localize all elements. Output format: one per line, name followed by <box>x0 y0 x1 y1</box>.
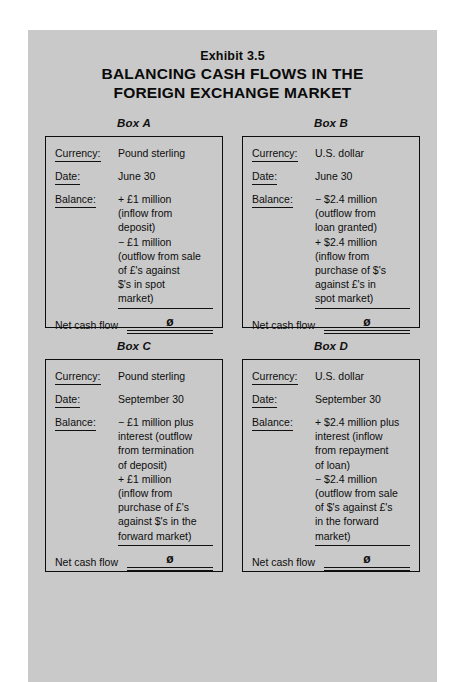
balance-line: (outflow from sale <box>118 249 213 263</box>
balance-line: of £'s against <box>118 263 213 277</box>
box-d: Currency: U.S. dollar Date: September 30… <box>242 359 420 572</box>
balance-line: of loan) <box>315 458 410 472</box>
balance-line: market) <box>315 529 410 543</box>
field-currency-c: Currency: Pound sterling <box>55 369 213 385</box>
box-b: Currency: U.S. dollar Date: June 30 Bala… <box>242 136 420 328</box>
field-value-date-b: June 30 <box>315 169 410 183</box>
field-label-currency-c: Currency: <box>55 369 118 385</box>
box-row-bottom: Box C Currency: Pound sterling Date: Sep… <box>28 339 437 572</box>
field-date-b: Date: June 30 <box>252 169 410 185</box>
balance-line: loan granted) <box>315 220 410 234</box>
balance-line: − £1 million <box>118 235 213 249</box>
balance-line: purchase of £'s <box>118 500 213 514</box>
field-label-balance-c: Balance: <box>55 415 118 431</box>
balance-line: from termination <box>118 443 213 457</box>
balance-line: + £1 million <box>118 192 213 206</box>
net-cash-flow-value-b: ø <box>324 316 410 329</box>
field-label-balance-d: Balance: <box>252 415 315 431</box>
field-currency-d: Currency: U.S. dollar <box>252 369 410 385</box>
net-cash-flow-double-rule-b <box>324 330 410 335</box>
box-caption-d: Box D <box>242 339 420 354</box>
field-currency-a: Currency: Pound sterling <box>55 146 213 162</box>
balance-line: $'s in spot <box>118 277 213 291</box>
field-value-date-a: June 30 <box>118 169 213 183</box>
balance-divider-a <box>118 308 213 309</box>
field-label-currency-a: Currency: <box>55 146 118 162</box>
net-cash-flow-label-d: Net cash flow <box>252 555 315 571</box>
balance-line: (outflow from <box>315 206 410 220</box>
field-label-date-b: Date: <box>252 169 315 185</box>
box-column-a: Box A Currency: Pound sterling Date: Jun… <box>45 116 223 328</box>
balance-line: of $'s against £'s <box>315 500 410 514</box>
balance-line: (inflow from <box>118 486 213 500</box>
balance-line: interest (inflow <box>315 429 410 443</box>
net-cash-flow-double-rule-a <box>127 330 213 335</box>
net-cash-flow-value-d: ø <box>324 553 410 566</box>
net-cash-flow-label-b: Net cash flow <box>252 318 315 334</box>
exhibit-title-line-1: BALANCING CASH FLOWS IN THE <box>28 64 437 83</box>
net-cash-flow-label-a: Net cash flow <box>55 318 118 334</box>
title-block: Exhibit 3.5 BALANCING CASH FLOWS IN THE … <box>28 30 437 102</box>
balance-divider-c <box>118 545 213 546</box>
field-label-currency-b: Currency: <box>252 146 315 162</box>
field-label-date-d: Date: <box>252 392 315 408</box>
field-value-currency-c: Pound sterling <box>118 369 213 383</box>
box-caption-b: Box B <box>242 116 420 131</box>
field-label-date-a: Date: <box>55 169 118 185</box>
balance-line: (inflow from <box>315 249 410 263</box>
net-cash-flow-double-rule-d <box>324 567 410 572</box>
field-date-a: Date: June 30 <box>55 169 213 185</box>
net-cash-flow-field-d: ø <box>324 553 410 572</box>
balance-divider-b <box>315 308 410 309</box>
field-value-currency-b: U.S. dollar <box>315 146 410 160</box>
field-label-balance-a: Balance: <box>55 192 118 208</box>
balance-line: of deposit) <box>118 458 213 472</box>
net-cash-flow-field-b: ø <box>324 316 410 335</box>
field-balance-b: Balance: − $2.4 million (outflow from lo… <box>252 192 410 306</box>
balance-line: − £1 million plus <box>118 415 213 429</box>
balance-line: in the forward <box>315 514 410 528</box>
box-c: Currency: Pound sterling Date: September… <box>45 359 223 572</box>
balance-line: + $2.4 million plus <box>315 415 410 429</box>
field-value-currency-a: Pound sterling <box>118 146 213 160</box>
balance-line: purchase of $'s <box>315 263 410 277</box>
box-caption-a: Box A <box>45 116 223 131</box>
field-value-balance-d: + $2.4 million plus interest (inflow fro… <box>315 415 410 543</box>
field-value-balance-a: + £1 million (inflow from deposit) − £1 … <box>118 192 213 306</box>
balance-line: deposit) <box>118 220 213 234</box>
field-value-date-c: September 30 <box>118 392 213 406</box>
exhibit-page: Exhibit 3.5 BALANCING CASH FLOWS IN THE … <box>28 30 437 682</box>
field-value-balance-c: − £1 million plus interest (outflow from… <box>118 415 213 543</box>
balance-line: + £1 million <box>118 472 213 486</box>
balance-line: (outflow from sale <box>315 486 410 500</box>
exhibit-number: Exhibit 3.5 <box>28 48 437 64</box>
balance-line: against $'s in the <box>118 514 213 528</box>
field-label-currency-d: Currency: <box>252 369 315 385</box>
box-column-d: Box D Currency: U.S. dollar Date: Septem… <box>242 339 420 572</box>
net-cash-flow-value-a: ø <box>127 316 213 329</box>
field-date-c: Date: September 30 <box>55 392 213 408</box>
balance-line: from repayment <box>315 443 410 457</box>
net-cash-flow-row-c: Net cash flow ø <box>55 553 213 572</box>
net-cash-flow-row-b: Net cash flow ø <box>252 316 410 335</box>
field-balance-a: Balance: + £1 million (inflow from depos… <box>55 192 213 306</box>
box-column-c: Box C Currency: Pound sterling Date: Sep… <box>45 339 223 572</box>
balance-line: forward market) <box>118 529 213 543</box>
field-label-balance-b: Balance: <box>252 192 315 208</box>
net-cash-flow-row-d: Net cash flow ø <box>252 553 410 572</box>
field-value-date-d: September 30 <box>315 392 410 406</box>
box-a: Currency: Pound sterling Date: June 30 B… <box>45 136 223 328</box>
net-cash-flow-field-c: ø <box>127 553 213 572</box>
field-value-balance-b: − $2.4 million (outflow from loan grante… <box>315 192 410 306</box>
balance-line: interest (outflow <box>118 429 213 443</box>
field-label-date-c: Date: <box>55 392 118 408</box>
balance-line: (inflow from <box>118 206 213 220</box>
box-caption-c: Box C <box>45 339 223 354</box>
balance-line: spot market) <box>315 291 410 305</box>
field-balance-c: Balance: − £1 million plus interest (out… <box>55 415 213 543</box>
net-cash-flow-row-a: Net cash flow ø <box>55 316 213 335</box>
net-cash-flow-label-c: Net cash flow <box>55 555 118 571</box>
balance-line: against £'s in <box>315 277 410 291</box>
box-row-top: Box A Currency: Pound sterling Date: Jun… <box>28 116 437 328</box>
net-cash-flow-value-c: ø <box>127 553 213 566</box>
